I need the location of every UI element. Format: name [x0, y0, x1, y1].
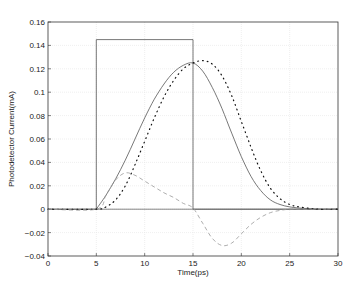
photodetector-current-chart: 051015202530 −0.04−0.0200.020.040.060.08… [0, 0, 360, 288]
y-axis-ticks: −0.04−0.0200.020.040.060.080.10.120.140.… [25, 18, 51, 261]
x-tick-label: 30 [334, 259, 343, 268]
y-tick-label: 0.04 [29, 158, 45, 167]
y-tick-label: 0.1 [34, 88, 46, 97]
x-tick-label: 25 [285, 259, 294, 268]
y-tick-label: −0.04 [25, 252, 46, 261]
x-tick-label: 0 [46, 259, 51, 268]
x-axis-ticks: 051015202530 [46, 253, 343, 268]
x-tick-label: 20 [237, 259, 246, 268]
series-solid-curve [96, 63, 338, 210]
y-tick-label: 0.08 [29, 112, 45, 121]
x-tick-label: 10 [140, 259, 149, 268]
x-axis-label: Time(ps) [177, 268, 209, 277]
y-tick-label: 0.16 [29, 18, 45, 27]
y-tick-label: −0.02 [25, 229, 46, 238]
x-tick-label: 5 [94, 259, 99, 268]
y-tick-label: 0.14 [29, 41, 45, 50]
y-tick-label: 0 [41, 205, 46, 214]
y-axis-label: Photodetector Current(mA) [7, 91, 16, 187]
y-tick-label: 0.02 [29, 182, 45, 191]
y-tick-label: 0.12 [29, 65, 45, 74]
y-tick-label: 0.06 [29, 135, 45, 144]
series-rectangular-pulse [48, 40, 338, 210]
x-tick-label: 15 [189, 259, 198, 268]
